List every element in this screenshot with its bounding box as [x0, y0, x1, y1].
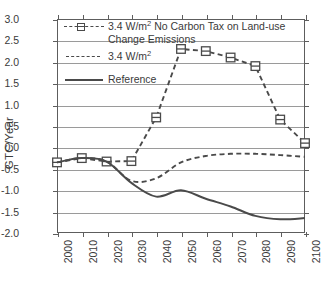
legend-item-no-carbon-tax: 3.4 W/m2 No Carbon Tax on Land-use Chang… [64, 20, 296, 46]
chart-figure: GTC/Year 3.02.52.01.51.00.50.0-0.5-1.0-1… [0, 0, 328, 286]
legend-item-34wm2: 3.4 W/m2 [64, 50, 296, 63]
legend-item-reference: Reference [64, 73, 296, 86]
legend-label-reference: Reference [104, 73, 156, 86]
legend-key-dashed-icon [64, 50, 104, 63]
chart-legend: 3.4 W/m2 No Carbon Tax on Land-use Chang… [64, 20, 296, 88]
series-line [57, 158, 305, 219]
series-2 [57, 158, 305, 219]
legend-label-no-carbon-tax: 3.4 W/m2 No Carbon Tax on Land-use Chang… [104, 20, 285, 46]
legend-label-34wm2: 3.4 W/m2 [104, 50, 151, 63]
legend-key-dashed-square-icon [64, 20, 104, 33]
legend-key-solid-icon [64, 73, 104, 86]
